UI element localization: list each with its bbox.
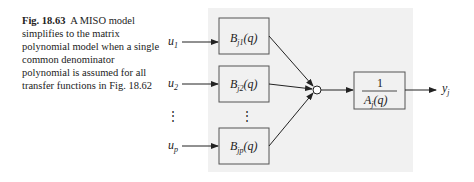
block-bjp: Bjp(q): [219, 128, 269, 164]
input-ellipsis: ⋮: [167, 109, 179, 123]
block-bj2: Bj2(q): [219, 66, 269, 102]
block-bj1: Bj1(q): [219, 18, 269, 54]
input-u2-label: u2: [168, 76, 178, 92]
svg-text:Bj2(q): Bj2(q): [230, 77, 258, 93]
block-denominator: 1 Aj(q): [354, 72, 405, 109]
miso-block-diagram: u1 u2 ⋮ up Bj1(q) Bj2(q) ⋮ Bjp(q) 1 Aj(q…: [0, 0, 474, 182]
input-u1-label: u1: [168, 34, 178, 50]
svg-text:Aj(q): Aj(q): [363, 93, 388, 109]
input-up-label: up: [168, 138, 178, 154]
svg-text:1: 1: [377, 76, 383, 90]
svg-text:Bj1(q): Bj1(q): [230, 31, 258, 47]
block-ellipsis: ⋮: [241, 109, 253, 123]
summing-junction: [313, 86, 321, 94]
output-yj-label: yj: [441, 81, 450, 97]
svg-text:Bjp(q): Bjp(q): [230, 139, 258, 155]
